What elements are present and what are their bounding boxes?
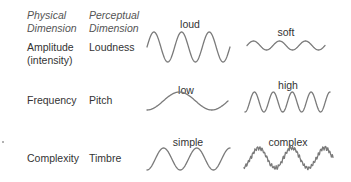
wave-low-icon	[147, 92, 228, 110]
wave-complex-icon	[244, 146, 333, 169]
wave-simple-icon	[147, 148, 230, 170]
wave-loud-icon	[147, 32, 230, 62]
wave-high-icon	[245, 92, 330, 112]
wave-soft-icon	[247, 41, 325, 50]
waveforms	[0, 0, 351, 182]
